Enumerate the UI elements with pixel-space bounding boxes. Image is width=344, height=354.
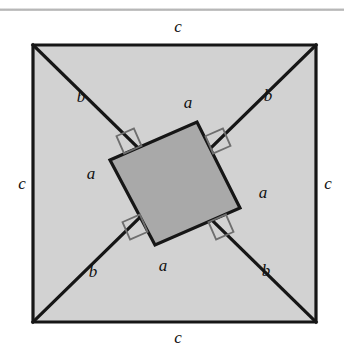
label-leg-b-bottom-left: b <box>89 263 98 280</box>
label-leg-a-left: a <box>87 165 96 182</box>
figure-canvas <box>0 0 344 354</box>
label-leg-b-top-left: b <box>77 88 86 105</box>
label-side-left: c <box>18 175 26 192</box>
label-leg-a-top: a <box>184 94 193 111</box>
label-leg-b-top-right: b <box>264 87 273 104</box>
label-side-right: c <box>324 175 332 192</box>
pythagorean-proof-figure: c c c c b b b b a a a a <box>0 0 344 354</box>
label-side-top: c <box>174 18 182 35</box>
label-side-bottom: c <box>174 329 182 346</box>
label-leg-a-bottom: a <box>159 257 168 274</box>
label-leg-a-right: a <box>259 184 268 201</box>
label-leg-b-bottom-right: b <box>262 262 271 279</box>
